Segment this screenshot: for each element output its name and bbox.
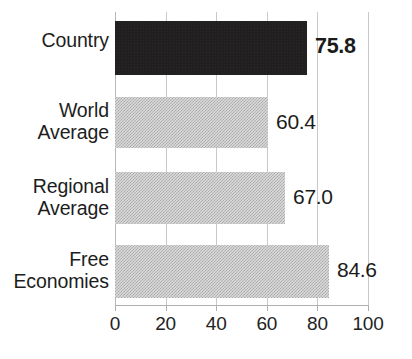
tick-mark-80: [317, 305, 318, 311]
horizontal-bar-chart: Country World Average Regional Average F…: [0, 0, 412, 359]
tick-mark-20: [166, 305, 167, 311]
x-tick-label-20: 20: [155, 313, 176, 335]
x-tick-label-60: 60: [256, 313, 277, 335]
x-axis-line: [115, 305, 369, 306]
bar-country: [115, 21, 307, 75]
bar-world-average: [115, 97, 268, 148]
tick-mark-100: [368, 305, 369, 311]
bar-regional-average: [115, 172, 285, 224]
value-label-free-economies: 84.6: [337, 259, 377, 280]
tick-mark-40: [216, 305, 217, 311]
x-tick-label-100: 100: [352, 313, 383, 335]
category-label-country: Country: [1, 29, 109, 51]
value-label-country: 75.8: [315, 36, 356, 57]
x-tick-label-0: 0: [110, 313, 120, 335]
tick-mark-0: [115, 305, 116, 311]
tick-mark-60: [267, 305, 268, 311]
category-label-free-economies: Free Economies: [1, 248, 109, 292]
bar-free-economies: [115, 245, 329, 298]
category-label-regional-average: Regional Average: [1, 175, 109, 219]
x-tick-label-40: 40: [206, 313, 227, 335]
category-label-world-average: World Average: [1, 99, 109, 143]
value-label-world-average: 60.4: [276, 111, 316, 132]
value-label-regional-average: 67.0: [293, 186, 333, 207]
x-tick-label-80: 80: [307, 313, 328, 335]
